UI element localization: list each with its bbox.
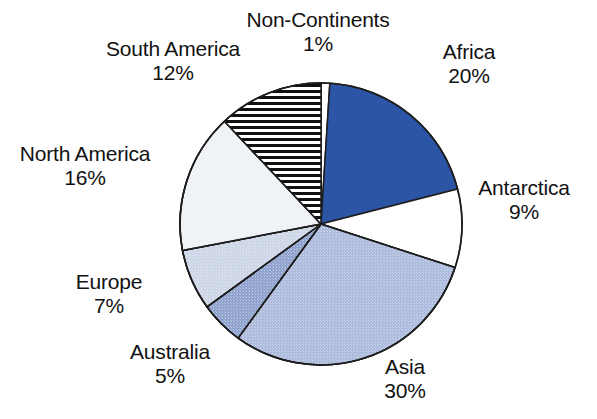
pie-chart-figure: Non-Continents 1% Africa 20% Antarctica … <box>0 0 597 419</box>
slice-name-south-america: South America <box>106 37 240 61</box>
slice-value-europe: 7% <box>76 294 143 318</box>
slice-name-north-america: North America <box>20 142 150 166</box>
pie-label-south-america: South America 12% <box>106 37 240 86</box>
slice-value-australia: 5% <box>130 364 210 388</box>
pie-label-australia: Australia 5% <box>130 340 210 389</box>
pie-slice-group <box>180 83 462 365</box>
slice-value-south-america: 12% <box>106 61 240 85</box>
slice-value-asia: 30% <box>384 379 425 403</box>
slice-name-non-continents: Non-Continents <box>246 8 389 32</box>
slice-value-antarctica: 9% <box>478 200 569 224</box>
pie-label-north-america: North America 16% <box>20 142 150 191</box>
slice-value-non-continents: 1% <box>246 32 389 56</box>
slice-value-africa: 20% <box>443 64 495 88</box>
slice-name-australia: Australia <box>130 340 210 364</box>
slice-value-north-america: 16% <box>20 166 150 190</box>
slice-name-asia: Asia <box>384 355 425 379</box>
slice-name-antarctica: Antarctica <box>478 176 569 200</box>
pie-label-africa: Africa 20% <box>443 40 495 89</box>
pie-label-europe: Europe 7% <box>76 270 143 319</box>
slice-name-europe: Europe <box>76 270 143 294</box>
pie-label-non-continents: Non-Continents 1% <box>246 8 389 57</box>
pie-label-asia: Asia 30% <box>384 355 425 404</box>
pie-label-antarctica: Antarctica 9% <box>478 176 569 225</box>
slice-name-africa: Africa <box>443 40 495 64</box>
